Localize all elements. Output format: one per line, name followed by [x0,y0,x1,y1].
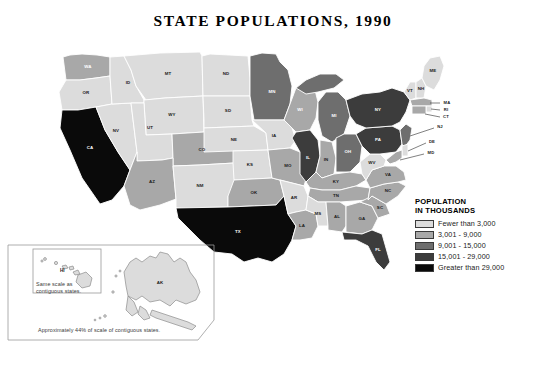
label-MS: MS [315,211,322,216]
label-LA: LA [299,223,306,228]
label-DE: DE [429,139,435,144]
legend-swatch-2 [415,231,434,240]
label-AR: AR [291,195,298,200]
label-TX: TX [235,229,241,234]
state-DE[interactable] [402,144,408,156]
label-KS: KS [247,162,253,167]
label-SC: SC [377,205,384,210]
legend-swatch-5 [415,264,434,273]
label-OR: OR [83,90,91,95]
alaska-shape[interactable] [94,252,200,330]
legend-rows: Fewer than 3,0003,001 - 9,0009,001 - 15,… [415,219,541,273]
label-WV: WV [368,160,375,165]
label-IA: IA [272,133,277,138]
label-WY: WY [168,112,175,117]
hawaii-scale-note: Same scale as contiguous states. [36,281,98,295]
label-ND: ND [223,71,230,76]
state-MA[interactable] [410,98,432,106]
label-AZ: AZ [149,179,155,184]
label-HI: HI [60,268,65,273]
legend-label-2: 3,001 - 9,000 [438,230,482,239]
label-NC: NC [385,188,392,193]
label-CA: CA [87,145,94,150]
label-NJ: NJ [437,124,443,129]
legend-item-1[interactable]: Fewer than 3,000 [415,219,541,229]
leader-DE [408,143,426,151]
label-MA: MA [444,100,451,105]
label-MI: MI [331,113,336,118]
legend-item-2[interactable]: 3,001 - 9,000 [415,230,541,240]
label-WI: WI [297,107,303,112]
label-AL: AL [334,214,340,219]
us-choropleth-map: WA OR CA NV ID MT WY UT AZ CO NM ND SD N… [0,0,546,370]
legend-label-3: 9,001 - 15,000 [438,241,486,250]
state-FL[interactable] [342,230,390,270]
legend-item-5[interactable]: Greater than 29,000 [415,263,541,273]
label-TN: TN [333,193,339,198]
state-MI-upper[interactable] [296,74,344,94]
label-MT: MT [165,71,172,76]
label-IN: IN [324,157,329,162]
legend-title-line1: POPULATION [415,197,541,206]
label-MD: MD [428,150,435,155]
leader-NJ [410,128,434,136]
legend-item-4[interactable]: 15,001 - 29,000 [415,252,541,262]
label-UT: UT [147,125,153,130]
legend-title-line2: IN THOUSANDS [415,206,541,215]
label-WA: WA [84,64,92,69]
label-MN: MN [268,89,275,94]
label-AK: AK [157,280,164,285]
label-MO: MO [284,163,292,168]
label-KY: KY [333,179,339,184]
label-OK: OK [251,190,259,195]
label-IL: IL [306,155,310,160]
label-RI: RI [444,107,449,112]
legend-label-4: 15,001 - 29,000 [438,252,490,261]
label-PA: PA [375,137,382,142]
map-figure: STATE POPULATIONS, 1990 [0,0,546,370]
legend-label-1: Fewer than 3,000 [438,219,496,228]
label-NV: NV [113,128,119,133]
legend-label-5: Greater than 29,000 [438,263,504,272]
label-NY: NY [375,107,381,112]
map-legend: POPULATION IN THOUSANDS Fewer than 3,000… [415,197,541,274]
legend-item-3[interactable]: 9,001 - 15,000 [415,241,541,251]
label-OH: OH [345,149,352,154]
state-CT[interactable] [412,106,426,114]
label-FL: FL [375,247,381,252]
label-NH: NH [418,86,425,91]
label-ME: ME [430,68,437,73]
legend-swatch-3 [415,242,434,251]
label-SD: SD [225,108,231,113]
state-MN[interactable] [250,53,292,120]
alaska-scale-note: Approximately 44% of scale of contiguous… [38,327,208,334]
label-VA: VA [385,172,392,177]
label-ID: ID [126,80,131,85]
label-VT: VT [407,88,413,93]
legend-swatch-4 [415,253,434,262]
label-NM: NM [196,183,203,188]
label-CO: CO [199,147,206,152]
legend-swatch-1 [415,220,434,229]
state-NM[interactable] [173,163,235,208]
label-NE: NE [231,137,237,142]
leader-CT [425,114,440,117]
label-CT: CT [443,114,449,119]
label-GA: GA [359,216,367,221]
legend-title: POPULATION IN THOUSANDS [415,197,541,216]
states-layer [59,52,444,270]
